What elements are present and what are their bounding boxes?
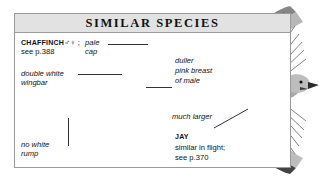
annotation-no-white-rump-line1: no white — [21, 140, 49, 149]
annotation-pale-cap-line1: pale — [85, 38, 99, 47]
similar-species-figure: SIMILAR SPECIES CHAFFINCH♂♀ ; see p.388 … — [0, 0, 319, 182]
jay-reference: see p.370 — [175, 153, 208, 162]
chaffinch-name: CHAFFINCH — [21, 39, 64, 47]
annotation-wingbar-line1: double white — [21, 69, 64, 78]
leader-line-pale-cap — [108, 44, 148, 45]
page-title: SIMILAR SPECIES — [15, 14, 290, 32]
jay-name: JAY — [175, 133, 189, 142]
annotation-pale-cap-line2: cap — [85, 47, 97, 56]
leader-line-wingbar — [78, 74, 122, 75]
chaffinch-sex-symbols: ♂♀ ; — [64, 38, 80, 47]
annotation-much-larger: much larger — [172, 112, 212, 121]
jay-note: similar in flight; — [175, 143, 225, 152]
leader-line-no-white-rump — [68, 118, 69, 146]
annotation-duller-line1: duller — [175, 56, 194, 65]
leader-line-duller-breast — [146, 87, 172, 88]
annotation-duller-line2: pink breast — [175, 66, 212, 75]
chaffinch-reference: see p.388 — [21, 47, 54, 56]
annotation-duller-line3: of male — [175, 76, 200, 85]
annotation-no-white-rump-line2: rump — [21, 149, 38, 158]
similar-species-panel: SIMILAR SPECIES — [14, 13, 291, 168]
leader-line-much-larger — [214, 108, 250, 130]
annotation-wingbar-line2: wingbar — [21, 78, 48, 87]
